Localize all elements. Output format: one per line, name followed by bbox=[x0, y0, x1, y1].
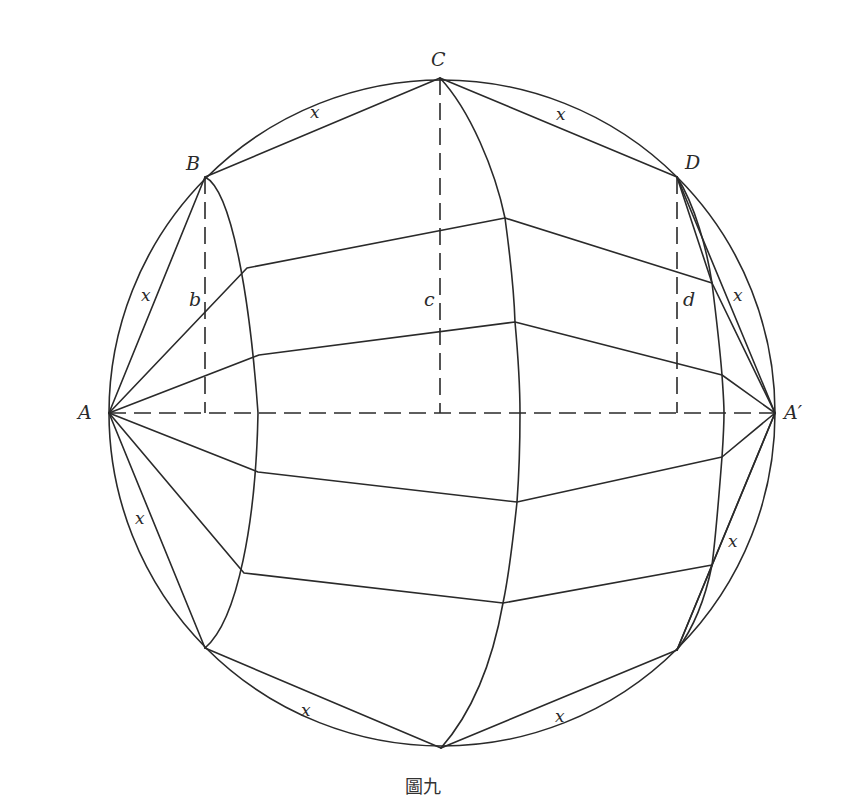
label-C: C bbox=[431, 48, 446, 70]
latitude-line-4 bbox=[109, 413, 775, 502]
label-c: c bbox=[424, 288, 435, 310]
label-x-bottom-right: x bbox=[555, 706, 565, 726]
chord-CD bbox=[440, 78, 677, 177]
chord-BC bbox=[205, 78, 440, 177]
chord-D-inner bbox=[677, 177, 712, 283]
label-x-A-bottomleft: x bbox=[135, 508, 145, 528]
label-x-BC: x bbox=[310, 102, 320, 122]
middle-meridian-curve bbox=[440, 78, 520, 748]
label-A-prime: A′ bbox=[782, 401, 803, 423]
label-B: B bbox=[185, 152, 200, 174]
diagram-canvas: A A′ B C D b c d x x x x x x x x bbox=[0, 0, 845, 800]
latitude-line-2 bbox=[109, 322, 775, 413]
label-x-bottom-left: x bbox=[301, 700, 311, 720]
chord-bottomright-inner bbox=[677, 565, 712, 650]
figure-caption: 圖九 bbox=[0, 772, 845, 798]
latitude-line-5 bbox=[109, 413, 775, 603]
chord-bottom-left bbox=[205, 648, 441, 748]
label-d: d bbox=[683, 288, 695, 310]
label-b: b bbox=[189, 288, 201, 310]
label-A: A bbox=[76, 401, 92, 423]
label-x-CD: x bbox=[556, 104, 566, 124]
label-x-AB: x bbox=[141, 285, 151, 305]
label-D: D bbox=[684, 151, 700, 173]
sphere-chord-diagram: A A′ B C D b c d x x x x x x x x 圖九 bbox=[0, 0, 845, 800]
chord-bottom-right bbox=[441, 650, 677, 748]
label-x-A-prime-bottomright: x bbox=[728, 531, 738, 551]
label-x-DA-prime: x bbox=[733, 285, 743, 305]
chord-A-bottomleft bbox=[109, 413, 205, 648]
latitude-line-1 bbox=[109, 218, 775, 413]
